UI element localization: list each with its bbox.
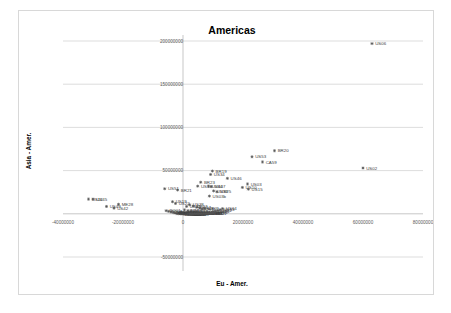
x-tick-label: 0 (182, 220, 185, 225)
point-marker (241, 186, 244, 189)
x-tick-label: 40000000 (293, 220, 314, 225)
data-point: US46 (226, 176, 242, 181)
point-marker (196, 185, 199, 188)
point-label: US03b (213, 194, 227, 199)
point-marker (371, 42, 374, 45)
point-marker (221, 207, 224, 210)
data-point: US49 (105, 204, 121, 209)
point-label: US02 (366, 166, 378, 171)
point-label: BR20 (278, 148, 290, 153)
data-point: US03b (208, 194, 227, 199)
y-tick-label: 150000000 (160, 82, 183, 87)
y-tick-label: -50000000 (161, 255, 183, 260)
data-point: US53 (251, 154, 267, 159)
data-point: US02 (362, 166, 378, 171)
x-tick-label: 60000000 (353, 220, 374, 225)
data-point-series: US06US02BR20US53CA59BR19US34US46BR23US13… (87, 41, 387, 216)
point-marker (251, 155, 254, 158)
data-point: US34 (209, 172, 225, 177)
point-marker (214, 210, 217, 213)
point-label: BO01 (169, 208, 181, 213)
point-label: BR21 (181, 188, 193, 193)
data-point: US51 (163, 186, 179, 191)
point-marker (210, 185, 213, 188)
point-marker (171, 200, 174, 203)
point-marker (174, 202, 177, 205)
point-marker (208, 195, 211, 198)
point-marker (362, 167, 365, 170)
scatter-plot: Americas -500000005000000010000000015000… (19, 11, 433, 294)
point-label: US64 (226, 206, 238, 211)
point-marker (212, 210, 215, 213)
point-marker (207, 185, 210, 188)
point-marker (261, 160, 264, 163)
point-marker (209, 173, 212, 176)
point-marker (273, 149, 276, 152)
point-label: US15 (252, 187, 264, 192)
y-axis-title: Asia - Amer. (25, 132, 32, 169)
x-tick-label: -40000000 (52, 220, 74, 225)
y-tick-label: 50000000 (163, 168, 184, 173)
point-label: US06 (375, 41, 387, 46)
point-marker (87, 198, 90, 201)
point-marker (212, 189, 215, 192)
point-marker (105, 205, 108, 208)
point-label: US46 (231, 176, 243, 181)
data-point: BR20 (273, 148, 289, 153)
x-axis-tick-labels: -40000000-200000000200000004000000060000… (52, 220, 433, 225)
point-label: US49 (110, 204, 122, 209)
axis-lines (63, 35, 423, 271)
point-label: US34 (214, 172, 226, 177)
x-axis-title: Eu - Amer. (216, 280, 248, 287)
data-point: US06 (371, 41, 387, 46)
x-tick-label: 20000000 (233, 220, 254, 225)
point-marker (92, 198, 95, 201)
y-axis-tick-labels: -500000005000000010000000015000000020000… (160, 39, 183, 260)
point-label: US45 (96, 197, 108, 202)
y-tick-label: 200000000 (160, 39, 183, 44)
y-tick-label: 100000000 (160, 125, 183, 130)
x-tick-label: -20000000 (112, 220, 134, 225)
point-marker (247, 188, 250, 191)
data-point: BO01 (165, 208, 181, 213)
point-marker (226, 177, 229, 180)
chart-title: Americas (208, 24, 255, 36)
data-point: CA59 (261, 160, 277, 165)
point-marker (165, 209, 168, 212)
point-label: CA59 (266, 160, 278, 165)
x-tick-label: 80000000 (413, 220, 433, 225)
point-marker (163, 187, 166, 190)
point-label: US51 (168, 186, 180, 191)
chart-container: Americas -500000005000000010000000015000… (18, 10, 434, 295)
